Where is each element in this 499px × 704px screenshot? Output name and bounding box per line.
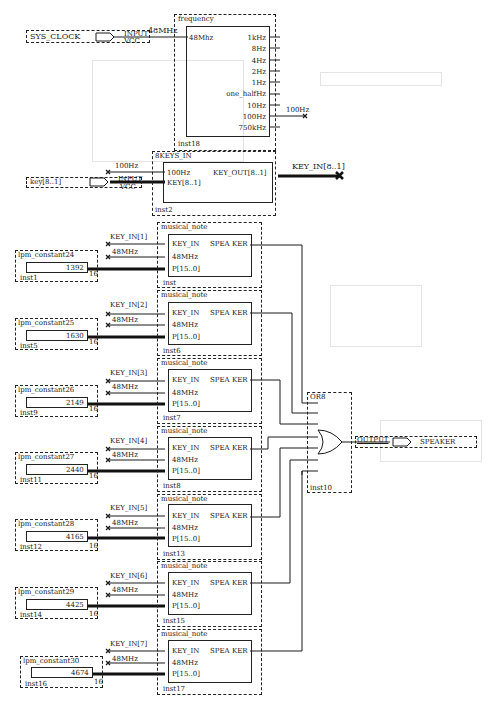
musical-note-title: musical_note [161, 562, 208, 570]
note-p-port: P[15..0] [172, 333, 200, 341]
keys-in-clk-net-label: 100Hz [115, 162, 138, 170]
frequency-output-port: 1kHz [210, 34, 266, 45]
note-speaker-port: SPEA KER [210, 309, 248, 317]
note-inst-label: inst13 [163, 550, 185, 558]
note-p-port: P[15..0] [172, 602, 200, 610]
note-p-port: P[15..0] [172, 265, 200, 273]
lpm-constant-title: lpm_constant30 [23, 657, 79, 665]
musical-note-title: musical_note [161, 630, 208, 638]
keys-in-inst-label: inst2 [155, 206, 173, 214]
lpm-constant-inst: inst14 [20, 611, 42, 619]
frequency-output-port: 100Hz [210, 113, 266, 124]
note-key-port: KEY_IN [172, 647, 199, 655]
note-speaker-port: SPEA KER [210, 240, 248, 248]
note-p-port: P[15..0] [172, 400, 200, 408]
note-clk-net-label: 48MHz [112, 248, 138, 256]
lpm-constant-width: 16 [89, 405, 98, 413]
note-inst-label: inst8 [163, 482, 181, 490]
key-in-bus-label: KEY_IN[8..1] [292, 162, 345, 171]
frequency-inst-label: inst18 [178, 140, 200, 148]
note-key-port: KEY_IN [172, 376, 199, 384]
frequency-output-port: 1Hz [210, 79, 266, 90]
note-inst-label: inst7 [163, 414, 181, 422]
frequency-output-port: 8Hz [210, 45, 266, 56]
frequency-out-net-label: 100Hz [286, 106, 309, 114]
note-speaker-port: SPEA KER [210, 647, 248, 655]
or8-title: OR8 [310, 393, 325, 401]
note-clk-port: 48MHz [172, 321, 198, 329]
note-p-port: P[15..0] [172, 467, 200, 475]
keys-in-title: 8KEYS_IN [155, 152, 192, 160]
lpm-constant-value: 4165 [66, 533, 84, 541]
note-key-net-label: KEY_IN[5] [110, 504, 147, 512]
note-speaker-port: SPEA KER [210, 512, 248, 520]
note-key-port: KEY_IN [172, 512, 199, 520]
musical-note-title: musical_note [161, 495, 208, 503]
note-p-port: P[15..0] [172, 535, 200, 543]
lpm-constant-width: 16 [89, 542, 98, 550]
lpm-constant-width: 16 [94, 678, 103, 686]
lpm-constant-value: 1630 [66, 332, 84, 340]
lpm-constant-inst: inst9 [20, 409, 38, 417]
note-key-net-label: KEY_IN[3] [110, 369, 147, 377]
note-clk-net-label: 48MHz [112, 519, 138, 527]
lpm-constant-value: 4674 [71, 669, 89, 677]
lpm-constant-inst: inst11 [20, 476, 42, 484]
note-clk-port: 48MHz [172, 389, 198, 397]
note-clk-net-label: 48MHz [112, 655, 138, 663]
keys-in-key-port: KEY[8..1] [167, 179, 201, 187]
note-clk-port: 48MHz [172, 456, 198, 464]
note-inst-label: inst6 [163, 347, 181, 355]
lpm-constant-width: 16 [89, 472, 98, 480]
note-inst-label: inst17 [163, 685, 185, 693]
lpm-constant-value: 2149 [66, 399, 84, 407]
lpm-constant-title: lpm_constant28 [18, 520, 74, 528]
note-clk-port: 48MHz [172, 659, 198, 667]
frequency-output-port: one_halfHz [210, 90, 266, 101]
lpm-constant-title: lpm_constant26 [18, 386, 74, 394]
frequency-output-port: 4Hz [210, 57, 266, 68]
lpm-constant-width: 16 [89, 338, 98, 346]
sys-clock-default: VCC [124, 37, 140, 45]
musical-note-title: musical_note [161, 223, 208, 231]
note-key-net-label: KEY_IN[2] [110, 301, 147, 309]
lpm-constant-inst: inst16 [25, 680, 47, 688]
sys-clock-label: SYS_CLOCK [30, 32, 80, 41]
frequency-outputs: 1kHz 8Hz 4Hz 2Hz 1Hz one_halfHz 10Hz 100… [210, 34, 266, 136]
note-clk-net-label: 48MHz [112, 451, 138, 459]
lpm-constant-title: lpm_constant29 [18, 588, 74, 596]
note-clk-port: 48MHz [172, 253, 198, 261]
note-clk-net-label: 48MHz [112, 316, 138, 324]
note-key-net-label: KEY_IN[7] [110, 640, 147, 648]
or8-block[interactable] [307, 392, 352, 493]
musical-note-title: musical_note [161, 291, 208, 299]
key-input-type: INPUT [118, 175, 142, 183]
lpm-constant-title: lpm_constant27 [18, 453, 74, 461]
lpm-constant-title: lpm_constant25 [18, 319, 74, 327]
note-key-port: KEY_IN [172, 240, 199, 248]
note-clk-net-label: 48MHz [112, 383, 138, 391]
note-key-net-label: KEY_IN[4] [110, 437, 147, 445]
or8-inst-label: inst10 [310, 484, 332, 492]
key-input-default: VCC [120, 183, 136, 191]
note-inst-label: inst15 [163, 617, 185, 625]
note-clk-net-label: 48MHz [112, 586, 138, 594]
note-key-net-label: KEY_IN[1] [110, 233, 147, 241]
note-p-port: P[15..0] [172, 670, 200, 678]
musical-note-title: musical_note [161, 359, 208, 367]
note-key-net-label: KEY_IN[6] [110, 572, 147, 580]
frequency-output-port: 10Hz [210, 102, 266, 113]
lpm-constant-width: 16 [89, 610, 98, 618]
note-key-port: KEY_IN [172, 309, 199, 317]
lpm-constant-value: 2440 [66, 466, 84, 474]
lpm-constant-width: 16 [89, 270, 98, 278]
note-speaker-port: SPEA KER [210, 579, 248, 587]
musical-note-title: musical_note [161, 427, 208, 435]
note-speaker-port: SPEA KER [210, 444, 248, 452]
frequency-output-port: 2Hz [210, 68, 266, 79]
note-speaker-port: SPEA KER [210, 376, 248, 384]
keys-in-out-port: KEY_OUT[8..1] [213, 169, 267, 177]
lpm-constant-value: 4425 [66, 601, 84, 609]
note-inst-label: inst [163, 279, 176, 287]
note-clk-port: 48MHz [172, 591, 198, 599]
